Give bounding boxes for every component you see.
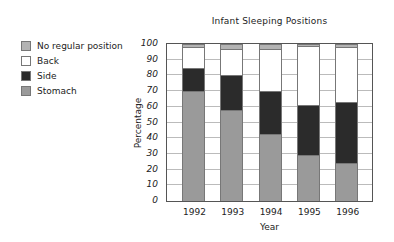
bar-segment-side	[335, 102, 358, 163]
x-tick-label: 1993	[213, 207, 253, 217]
bar-segment-back	[335, 47, 358, 102]
bar-segment-stomach	[220, 110, 243, 201]
legend-label: Back	[37, 56, 59, 66]
bar-segment-back	[182, 47, 205, 67]
bar-segment-no-regular-position	[335, 44, 358, 47]
y-tick-label: 20	[138, 164, 158, 174]
bar-segment-stomach	[182, 91, 205, 201]
y-tick-label: 100	[138, 38, 158, 48]
x-tick-label: 1992	[175, 207, 215, 217]
x-axis-label: Year	[166, 222, 373, 232]
bar-1992	[182, 44, 205, 201]
bar-segment-stomach	[297, 155, 320, 201]
legend-swatch	[21, 86, 31, 96]
y-tick-label: 60	[138, 101, 158, 111]
legend-swatch	[21, 41, 31, 51]
y-tick-label: 0	[138, 195, 158, 205]
x-tick-label: 1995	[289, 207, 329, 217]
legend-item-back: Back	[21, 55, 59, 67]
bar-segment-no-regular-position	[259, 44, 282, 49]
legend-swatch	[21, 56, 31, 66]
x-tick-label: 1994	[251, 207, 291, 217]
legend-swatch	[21, 71, 31, 81]
bar-segment-back	[259, 49, 282, 91]
chart-title: Infant Sleeping Positions	[166, 16, 373, 26]
y-tick-label: 70	[138, 85, 158, 95]
bar-segment-side	[259, 91, 282, 133]
bar-1995	[297, 44, 320, 201]
legend-label: Side	[37, 71, 56, 81]
plot-area	[166, 43, 373, 202]
bar-segment-back	[297, 46, 320, 106]
y-tick-label: 10	[138, 179, 158, 189]
bar-segment-stomach	[259, 134, 282, 202]
bar-segment-no-regular-position	[220, 44, 243, 49]
bar-segment-no-regular-position	[297, 44, 320, 46]
y-tick-label: 40	[138, 132, 158, 142]
y-tick-label: 90	[138, 54, 158, 64]
bar-segment-back	[220, 49, 243, 76]
bar-segment-side	[182, 68, 205, 92]
bar-segment-no-regular-position	[182, 44, 205, 47]
bar-1996	[335, 44, 358, 201]
y-tick-label: 80	[138, 69, 158, 79]
legend-label: Stomach	[37, 86, 77, 96]
legend-item-side: Side	[21, 70, 56, 82]
bar-segment-side	[297, 105, 320, 155]
y-tick-label: 30	[138, 148, 158, 158]
bar-segment-side	[220, 75, 243, 110]
bar-1993	[220, 44, 243, 201]
bar-1994	[259, 44, 282, 201]
y-tick-label: 50	[138, 117, 158, 127]
legend-item-stomach: Stomach	[21, 85, 77, 97]
x-tick-label: 1996	[328, 207, 368, 217]
legend-item-no-regular-position: No regular position	[21, 40, 123, 52]
legend-label: No regular position	[37, 41, 123, 51]
bar-segment-stomach	[335, 163, 358, 201]
